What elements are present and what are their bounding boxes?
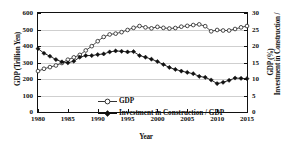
data-point-open-circle: [36, 69, 40, 73]
data-point-open-circle: [102, 35, 106, 39]
data-point-open-circle: [90, 44, 94, 48]
legend-label-gdp: GDP: [119, 97, 134, 105]
data-point-filled-diamond: [149, 57, 153, 61]
data-point-filled-diamond: [179, 69, 183, 73]
data-point-open-circle: [132, 26, 136, 30]
series-investment: [36, 47, 249, 86]
data-point-open-circle: [209, 29, 213, 33]
y-tick-label-right: 15: [252, 59, 274, 67]
data-point-open-circle: [144, 26, 148, 30]
legend-label-investment: Investment in Construction / GDP: [119, 109, 224, 117]
data-point-filled-diamond: [84, 53, 88, 57]
x-axis-title: Year: [0, 133, 292, 141]
data-point-open-circle: [114, 32, 118, 36]
y-tick-label-left: 100: [11, 92, 33, 100]
data-point-filled-diamond: [125, 50, 129, 54]
data-point-open-circle: [54, 64, 58, 68]
plot-area: GDP Investment in Construction / GDP: [37, 12, 248, 113]
y-tick-label-left: 500: [11, 26, 33, 34]
data-point-filled-diamond: [197, 74, 201, 78]
y-tick-right: [244, 112, 247, 113]
chart-container: GDP (Trillion Yen) Investment in Constru…: [0, 0, 292, 148]
data-point-filled-diamond: [120, 49, 124, 53]
data-point-filled-diamond: [233, 76, 237, 80]
data-point-open-circle: [42, 67, 46, 71]
data-point-filled-diamond: [227, 78, 231, 82]
data-point-open-circle: [96, 39, 100, 43]
data-point-filled-diamond: [161, 62, 165, 66]
y-tick-label-right: 25: [252, 26, 274, 34]
y-tick-label-right: 10: [252, 75, 274, 83]
data-point-open-circle: [215, 28, 219, 32]
data-point-open-circle: [191, 23, 195, 27]
data-point-filled-diamond: [96, 52, 100, 56]
data-point-open-circle: [120, 30, 124, 34]
data-point-open-circle: [84, 49, 88, 53]
data-point-filled-diamond: [108, 50, 112, 54]
x-tick-label: 2015: [232, 115, 262, 123]
y-tick-label-left: 600: [11, 9, 33, 17]
x-tick-label: 1980: [23, 115, 53, 123]
data-point-filled-diamond: [48, 54, 52, 58]
data-point-filled-diamond: [143, 55, 147, 59]
y-axis-right-title-line1: Investment in Construction /: [274, 6, 282, 102]
x-tick-label: 1985: [53, 115, 83, 123]
data-point-filled-diamond: [239, 76, 243, 80]
y-tick-label-left: 400: [11, 42, 33, 50]
y-tick-label-left: 200: [11, 75, 33, 83]
data-point-open-circle: [203, 24, 207, 28]
y-tick-label-right: 30: [252, 9, 274, 17]
data-point-filled-diamond: [209, 78, 213, 82]
legend-marker-open-circle: [98, 98, 117, 105]
data-point-open-circle: [239, 26, 243, 30]
data-point-filled-diamond: [191, 72, 195, 76]
data-point-filled-diamond: [245, 77, 249, 81]
data-point-open-circle: [221, 29, 225, 33]
data-point-filled-diamond: [173, 67, 177, 71]
data-point-filled-diamond: [90, 53, 94, 57]
data-point-filled-diamond: [167, 65, 171, 69]
data-point-open-circle: [162, 26, 166, 30]
series-gdp: [36, 23, 249, 73]
data-point-filled-diamond: [54, 57, 58, 61]
data-point-open-circle: [185, 24, 189, 28]
data-point-filled-diamond: [114, 49, 118, 53]
data-point-open-circle: [227, 29, 231, 33]
data-point-open-circle: [72, 56, 76, 60]
data-point-filled-diamond: [215, 82, 219, 86]
legend-marker-filled-diamond: [98, 110, 117, 117]
data-point-open-circle: [197, 23, 201, 27]
y-tick-label-right: 20: [252, 42, 274, 50]
data-point-open-circle: [173, 26, 177, 30]
data-point-open-circle: [108, 33, 112, 37]
data-point-filled-diamond: [102, 52, 106, 56]
data-point-open-circle: [168, 27, 172, 31]
x-tick: [247, 109, 248, 112]
y-tick-left: [38, 112, 41, 113]
data-point-filled-diamond: [221, 80, 225, 84]
data-point-open-circle: [179, 25, 183, 29]
data-point-open-circle: [156, 25, 160, 29]
series-lines: [38, 13, 247, 112]
data-point-filled-diamond: [155, 59, 159, 63]
data-point-open-circle: [150, 26, 154, 30]
data-point-open-circle: [138, 24, 142, 28]
data-point-open-circle: [126, 28, 130, 32]
data-point-open-circle: [233, 27, 237, 31]
data-point-filled-diamond: [203, 75, 207, 79]
y-tick-label-right: 5: [252, 92, 274, 100]
y-tick-label-left: 300: [11, 59, 33, 67]
data-point-filled-diamond: [185, 70, 189, 74]
data-point-open-circle: [48, 65, 52, 69]
data-point-open-circle: [245, 24, 249, 28]
